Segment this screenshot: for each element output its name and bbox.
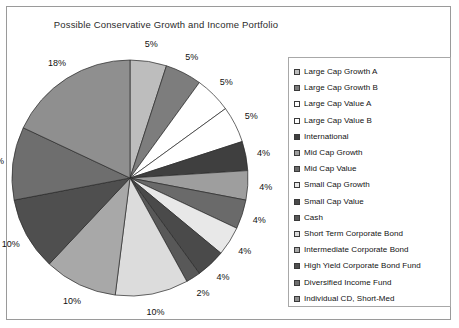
- legend-item[interactable]: Short Term Corporate Bond: [294, 226, 447, 242]
- legend-item[interactable]: Diversified Income Fund: [294, 274, 447, 290]
- legend-color-swatch-icon: [294, 101, 300, 107]
- pie-slice-percentage-label: 5%: [185, 52, 198, 62]
- legend-item[interactable]: International: [294, 129, 447, 145]
- legend-color-swatch-icon: [294, 280, 300, 286]
- legend-item[interactable]: High Yield Corporate Bond Fund: [294, 258, 447, 274]
- legend-item[interactable]: Mid Cap Value: [294, 161, 447, 177]
- pie-slice-percentage-label: 2%: [196, 288, 209, 298]
- legend-item-label: Intermediate Corporate Bond: [304, 246, 409, 254]
- legend-item[interactable]: Intermediate Corporate Bond: [294, 242, 447, 258]
- pie-slice-percentage-label: 18%: [48, 58, 66, 68]
- legend-item-label: Mid Cap Growth: [304, 149, 363, 157]
- legend-color-swatch-icon: [294, 263, 300, 269]
- pie-slice-percentage-label: 4%: [257, 148, 270, 158]
- pie-slice-group: [12, 60, 248, 296]
- legend-color-swatch-icon: [294, 199, 300, 205]
- legend-item-label: Small Cap Value: [304, 198, 364, 206]
- legend-color-swatch-icon: [294, 118, 300, 124]
- legend-item[interactable]: Mid Cap Growth: [294, 145, 447, 161]
- pie-slice-percentage-label: 5%: [245, 111, 258, 121]
- legend-color-swatch-icon: [294, 182, 300, 188]
- legend-color-swatch-icon: [294, 296, 300, 302]
- legend-item-label: Cash: [304, 214, 323, 222]
- chart-legend: Large Cap Growth ALarge Cap Growth BLarg…: [288, 57, 451, 307]
- legend-item-label: High Yield Corporate Bond Fund: [304, 262, 421, 270]
- pie-slice-percentage-label: 5%: [145, 39, 158, 49]
- legend-item-label: International: [304, 133, 349, 141]
- pie-slice-percentage-label: 4%: [238, 246, 251, 256]
- legend-item-label: Small Cap Growth: [304, 181, 370, 189]
- legend-item[interactable]: Small Cap Growth: [294, 177, 447, 193]
- pie-slice-percentage-label: 4%: [217, 272, 230, 282]
- legend-item[interactable]: Large Cap Growth B: [294, 80, 447, 96]
- legend-item[interactable]: Large Cap Value A: [294, 96, 447, 112]
- legend-color-swatch-icon: [294, 150, 300, 156]
- pie-svg: [7, 37, 297, 319]
- legend-item-label: Large Cap Value B: [304, 117, 372, 125]
- legend-item[interactable]: Large Cap Value B: [294, 113, 447, 129]
- legend-color-swatch-icon: [294, 166, 300, 172]
- legend-color-swatch-icon: [294, 215, 300, 221]
- legend-color-swatch-icon: [294, 247, 300, 253]
- pie-slice-percentage-label: 10%: [0, 156, 4, 166]
- legend-item-label: Large Cap Growth A: [304, 68, 377, 76]
- pie-slice-percentage-label: 10%: [63, 296, 81, 306]
- legend-item-label: Short Term Corporate Bond: [304, 230, 403, 238]
- pie-chart-plot-area: 5%5%5%5%4%4%4%4%4%2%10%10%10%10%18%: [7, 37, 297, 319]
- legend-color-swatch-icon: [294, 134, 300, 140]
- chart-title: Possible Conservative Growth and Income …: [7, 19, 325, 30]
- legend-item-list: Large Cap Growth ALarge Cap Growth BLarg…: [294, 64, 447, 307]
- legend-color-swatch-icon: [294, 85, 300, 91]
- chart-frame: Possible Conservative Growth and Income …: [6, 6, 451, 320]
- legend-item-label: Mid Cap Value: [304, 165, 357, 173]
- pie-slice-percentage-label: 10%: [2, 239, 20, 249]
- legend-item-label: Large Cap Growth B: [304, 84, 378, 92]
- legend-item[interactable]: Individual CD, Short-Med: [294, 291, 447, 307]
- pie-slice-percentage-label: 5%: [220, 77, 233, 87]
- legend-item[interactable]: Cash: [294, 210, 447, 226]
- legend-item[interactable]: Large Cap Growth A: [294, 64, 447, 80]
- pie-slice-percentage-label: 10%: [146, 307, 164, 317]
- legend-item-label: Large Cap Value A: [304, 100, 371, 108]
- legend-item[interactable]: Small Cap Value: [294, 194, 447, 210]
- pie-slice-percentage-label: 4%: [259, 182, 272, 192]
- legend-color-swatch-icon: [294, 231, 300, 237]
- legend-color-swatch-icon: [294, 69, 300, 75]
- legend-item-label: Diversified Income Fund: [304, 279, 391, 287]
- legend-item-label: Individual CD, Short-Med: [304, 295, 395, 303]
- pie-slice-percentage-label: 4%: [253, 215, 266, 225]
